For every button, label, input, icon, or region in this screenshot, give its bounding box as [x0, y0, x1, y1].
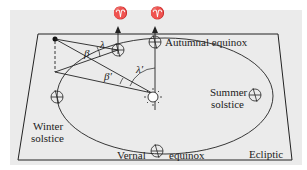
winter-solstice-label-2: solstice [31, 132, 64, 144]
summer-solstice-label-2: solstice [211, 98, 244, 110]
ecliptic-label: Ecliptic [249, 148, 283, 160]
aries-symbol-2: ♈ [150, 6, 165, 21]
lambda-prime-label: λ′ [136, 63, 143, 75]
sun-icon [144, 88, 162, 106]
lambda-label: λ [100, 38, 105, 50]
ecliptic-diagram [0, 0, 307, 170]
beta-prime-label: β′ [104, 70, 112, 82]
aries-symbol-1: ♈ [113, 6, 128, 21]
autumnal-equinox-label: Autumnal equinox [165, 36, 247, 48]
beta-label: β [84, 47, 89, 59]
earth-icon-summer [249, 88, 261, 102]
earth-icon-vernal [151, 144, 163, 158]
vernal-label: Vernal [117, 149, 146, 161]
winter-solstice-label-1: Winter [33, 120, 63, 132]
summer-solstice-label-1: Summer [210, 86, 247, 98]
equinox-label: equinox [169, 149, 204, 161]
